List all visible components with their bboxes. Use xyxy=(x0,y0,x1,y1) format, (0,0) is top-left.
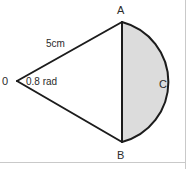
radius-length-label: 5cm xyxy=(46,38,65,49)
sector-diagram-canvas: 5cm 0.8 rad 0 A B C xyxy=(0,0,194,169)
radius-line-oa xyxy=(17,22,122,81)
angle-measure-label: 0.8 rad xyxy=(26,76,57,87)
point-a-label: A xyxy=(117,4,125,16)
vertex-o-label: 0 xyxy=(2,75,8,87)
geometry-figure: 5cm 0.8 rad 0 A B C xyxy=(0,0,194,169)
point-b-label: B xyxy=(117,149,124,161)
radius-line-ob xyxy=(17,81,122,142)
point-c-label: C xyxy=(159,78,167,90)
